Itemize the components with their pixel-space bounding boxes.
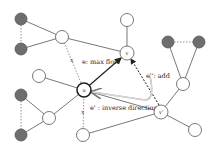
add-label: e'': add [146,72,170,80]
node-v-prime-label: v' [158,109,163,115]
node-v-label: v [125,50,129,56]
cut-mark-a-u: x [70,56,74,63]
white-node [189,124,202,137]
edge-bu-vp [83,112,161,135]
white-node [77,129,90,142]
edge-a-v [62,37,127,53]
gray-node [162,36,174,48]
inverse-direction-arrow-inner [92,76,152,100]
cut-mark-u-bu: x [81,108,85,115]
white-node [43,112,56,125]
inverse-label: e' : inverse direction [90,104,158,112]
nodes [15,13,205,142]
gray-node [15,89,27,101]
white-node [56,31,69,44]
white-node [177,78,190,91]
gray-node [15,13,27,25]
flow-graph-diagram: x x e: max flow e'': add e' : inverse di… [0,0,217,159]
gray-node [193,36,205,48]
gray-node [15,129,27,141]
gray-node [15,43,27,55]
dotted-a-u [62,37,84,90]
white-node [33,70,46,83]
white-node [121,14,134,27]
max-flow-label: e: max flow [82,58,120,66]
